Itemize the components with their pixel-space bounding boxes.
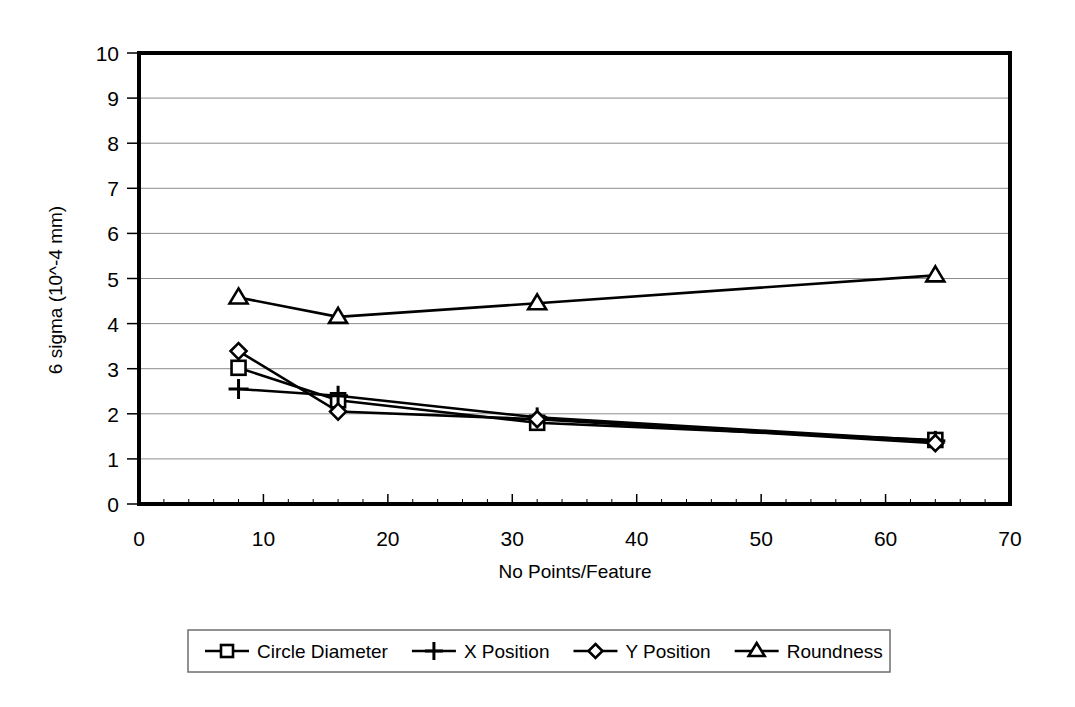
x-axis-tick-label: 0: [133, 527, 145, 550]
square-marker: [221, 645, 233, 657]
chart-figure: 012345678910 010203040506070 6 sigma (10…: [0, 0, 1075, 707]
y-axis-tick-label: 3: [107, 358, 119, 381]
y-axis-tick-label: 1: [107, 448, 119, 471]
y-axis-tick-label: 4: [107, 313, 119, 336]
y-axis-tick-label: 5: [107, 268, 119, 291]
x-axis-tick-label: 60: [874, 527, 897, 550]
chart-legend: Circle DiameterX PositionY PositionRound…: [188, 630, 890, 672]
x-axis-tick-label: 50: [749, 527, 772, 550]
legend-label: X Position: [464, 641, 550, 662]
chart-svg: 012345678910 010203040506070 6 sigma (10…: [0, 0, 1075, 707]
legend-label: Circle Diameter: [257, 641, 389, 662]
legend-label: Roundness: [787, 641, 883, 662]
y-axis-tick-label: 7: [107, 177, 119, 200]
square-marker: [232, 361, 246, 375]
y-axis-tick-label: 0: [107, 493, 119, 516]
x-axis-tick-label: 10: [252, 527, 275, 550]
x-axis-tick-label: 20: [376, 527, 399, 550]
legend-item-x-position[interactable]: X Position: [412, 641, 550, 662]
x-axis-title: No Points/Feature: [498, 561, 651, 582]
chart-background: [0, 0, 1075, 707]
x-axis-tick-label: 40: [625, 527, 648, 550]
y-axis-tick-label: 2: [107, 403, 119, 426]
y-axis-tick-label: 6: [107, 222, 119, 245]
x-axis-tick-label: 70: [998, 527, 1021, 550]
legend-label: Y Position: [625, 641, 710, 662]
y-axis-title: 6 sigma (10^-4 mm): [45, 206, 66, 374]
y-axis-tick-label: 9: [107, 87, 119, 110]
y-axis-tick-label: 10: [96, 42, 119, 65]
x-axis-tick-label: 30: [501, 527, 524, 550]
y-axis-tick-label: 8: [107, 132, 119, 155]
